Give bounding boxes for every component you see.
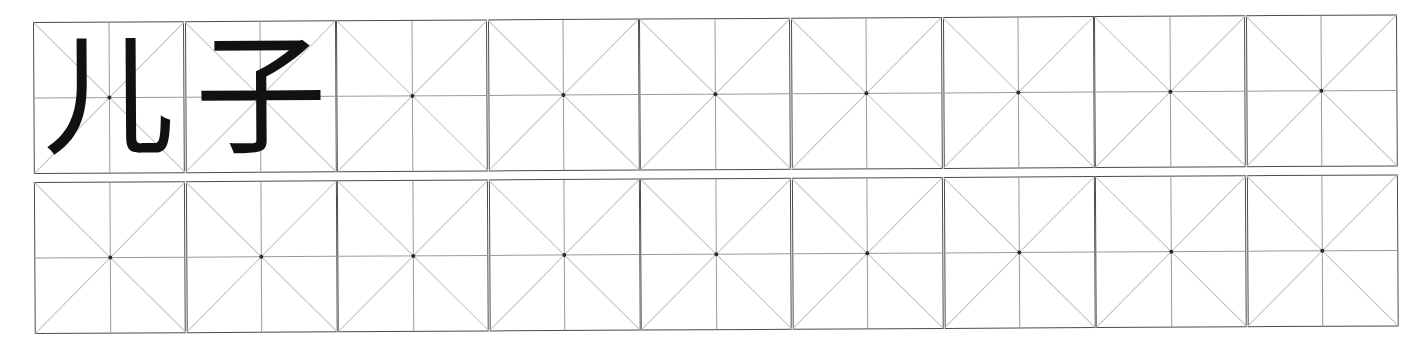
practice-cell[interactable] <box>943 16 1095 169</box>
practice-cell[interactable] <box>791 17 943 170</box>
cell-character <box>1095 16 1245 167</box>
practice-cell[interactable] <box>336 19 488 172</box>
practice-grid-row-1: 儿 子 <box>33 14 1398 174</box>
practice-cell[interactable] <box>1095 175 1247 328</box>
cell-character <box>35 182 185 333</box>
practice-cell[interactable]: 儿 <box>33 21 185 174</box>
cell-character <box>792 18 942 169</box>
cell-character <box>944 177 1094 328</box>
practice-cell[interactable] <box>185 180 337 333</box>
practice-cell[interactable] <box>1246 14 1398 167</box>
cell-character <box>489 20 639 171</box>
practice-cell[interactable] <box>943 176 1095 329</box>
cell-character <box>640 19 790 170</box>
cell-character <box>641 179 791 330</box>
cell-character: 子 <box>186 21 336 172</box>
cell-character <box>186 181 336 332</box>
practice-cell[interactable] <box>640 178 792 331</box>
cell-character <box>490 180 640 331</box>
cell-character <box>793 178 943 329</box>
cell-character: 儿 <box>34 22 184 173</box>
cell-character <box>337 20 487 171</box>
practice-cell[interactable] <box>1247 174 1399 327</box>
practice-cell[interactable] <box>1094 15 1246 168</box>
practice-grid-row-2 <box>34 174 1399 334</box>
cell-character <box>1248 175 1398 326</box>
character-practice-worksheet: 儿 子 <box>0 0 1428 356</box>
cell-character <box>1247 15 1397 166</box>
cell-character <box>338 180 488 331</box>
practice-cell[interactable] <box>792 177 944 330</box>
practice-cell[interactable] <box>34 181 186 334</box>
practice-grid: 儿 子 <box>33 14 1399 336</box>
practice-cell[interactable] <box>489 179 641 332</box>
practice-cell[interactable] <box>488 19 640 172</box>
practice-cell[interactable] <box>639 18 791 171</box>
practice-cell[interactable] <box>337 179 489 332</box>
practice-cell[interactable]: 子 <box>185 20 337 173</box>
cell-character <box>1096 176 1246 327</box>
cell-character <box>944 17 1094 168</box>
